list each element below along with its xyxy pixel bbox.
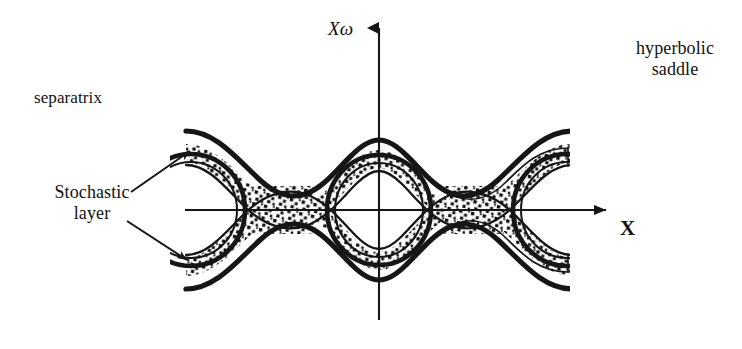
y-axis-label: Xω — [328, 18, 353, 40]
separatrix-label: separatrix — [34, 88, 102, 108]
hyperbolic-saddle-label: hyperbolic saddle — [614, 38, 736, 80]
figure-canvas: separatrix Stochastic layer hyperbolic s… — [0, 0, 742, 349]
stochastic-layer-label: Stochastic layer — [26, 182, 158, 224]
arrow-to-lower-stochastic-layer — [127, 221, 187, 260]
x-axis-label: X — [620, 216, 635, 241]
